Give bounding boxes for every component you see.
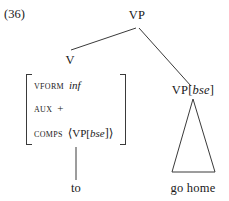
terminal-to: to [71, 182, 81, 195]
triangle-vp-bse [172, 99, 215, 172]
branch-root-to-vp-bse [139, 28, 191, 86]
matrix-row-aux: AUX + [34, 103, 113, 114]
node-vp-root: VP [129, 9, 145, 22]
node-v: V [65, 54, 74, 67]
matrix-value-vform: inf [69, 80, 81, 91]
matrix-bracket-right [120, 74, 126, 145]
matrix-rows: VFORM inf AUX + COMPS ⟨VP[bse]⟩ [34, 74, 113, 145]
matrix-row-comps: COMPS ⟨VP[bse]⟩ [34, 127, 113, 139]
comps-tag: bse [90, 127, 105, 139]
matrix-value-aux: + [57, 103, 63, 114]
node-vp-bse-tag: bse [193, 83, 210, 97]
matrix-attribute-vform: VFORM [34, 80, 64, 91]
matrix-value-comps: ⟨VP[bse]⟩ [68, 127, 114, 139]
matrix-attribute-aux: AUX [34, 103, 52, 114]
matrix-bracket-left [26, 74, 32, 145]
node-vp-bse: VP[bse] [172, 84, 214, 97]
syntax-tree-figure: (36) VP V VP[bse] VFORM inf AUX + COMPS [0, 0, 229, 201]
branch-root-to-v [71, 28, 136, 50]
comps-category: VP[ [72, 127, 90, 139]
comps-list-close: ]⟩ [105, 126, 114, 140]
matrix-row-vform: VFORM inf [34, 80, 113, 91]
node-vp-bse-category: VP[ [172, 83, 193, 97]
matrix-attribute-comps: COMPS [34, 128, 63, 139]
terminal-go-home: go home [171, 182, 216, 195]
feature-structure-matrix: VFORM inf AUX + COMPS ⟨VP[bse]⟩ [26, 74, 126, 145]
node-vp-bse-close: ] [210, 83, 214, 97]
